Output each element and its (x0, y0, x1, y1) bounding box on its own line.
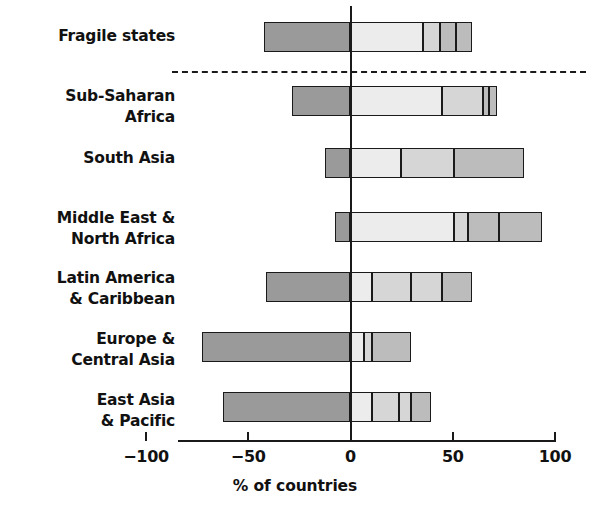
bar-segment (350, 86, 442, 116)
x-axis-tick-label: −100 (123, 447, 169, 466)
bar-segment (350, 212, 454, 242)
bar-segment (292, 86, 349, 116)
x-axis-tick (452, 432, 454, 441)
bar-segment (440, 22, 456, 52)
bar-segment (401, 148, 454, 178)
bar-segment (442, 86, 483, 116)
x-axis-tick-label: −50 (231, 447, 266, 466)
x-axis-line (178, 440, 556, 442)
bar-segment (442, 272, 473, 302)
bar-segment (454, 148, 524, 178)
bar-segment (372, 332, 411, 362)
bar-segment (411, 392, 431, 422)
fragile-states-separator (172, 71, 586, 73)
bar-segment (350, 22, 424, 52)
bar-row (0, 272, 590, 302)
x-axis-tick-label: 100 (539, 447, 572, 466)
chart-container: Fragile states Sub-Saharan Africa South … (0, 0, 590, 513)
bar-segment (335, 212, 349, 242)
bar-segment (456, 22, 472, 52)
bar-segment (399, 392, 411, 422)
x-axis-tick-label: 50 (442, 447, 464, 466)
bar-segment (350, 272, 372, 302)
plot-area: −100−50050100 (0, 0, 590, 513)
bar-row (0, 392, 590, 422)
bar-segment (499, 212, 542, 242)
bar-segment (350, 332, 364, 362)
x-axis-tick (554, 432, 556, 441)
x-axis-tick (350, 432, 352, 441)
x-axis-tick-label: 0 (345, 447, 356, 466)
bar-segment (423, 22, 439, 52)
bar-segment (350, 392, 372, 422)
bar-segment (266, 272, 350, 302)
bar-row (0, 212, 590, 242)
bar-segment (264, 22, 350, 52)
x-axis-title: % of countries (0, 477, 590, 495)
bar-segment (372, 272, 411, 302)
bar-row (0, 148, 590, 178)
x-axis-tick (247, 432, 249, 441)
bar-segment (468, 212, 499, 242)
bar-segment (325, 148, 350, 178)
bar-segment (223, 392, 350, 422)
bar-row (0, 22, 590, 52)
bar-segment (202, 332, 349, 362)
bar-segment (411, 272, 442, 302)
bar-segment (489, 86, 497, 116)
bar-segment (350, 148, 401, 178)
bar-row (0, 332, 590, 362)
x-axis-tick (145, 432, 147, 441)
bar-row (0, 86, 590, 116)
bar-segment (454, 212, 468, 242)
bar-segment (364, 332, 372, 362)
bar-segment (372, 392, 399, 422)
